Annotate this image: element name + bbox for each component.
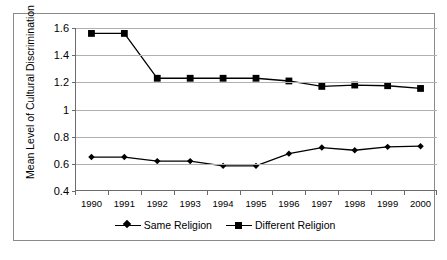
- x-tick-label: 1993: [180, 198, 201, 209]
- y-tick-mark: [72, 110, 76, 111]
- gridline: [75, 110, 437, 111]
- x-tick-mark: [338, 191, 339, 195]
- gridline: [75, 55, 437, 56]
- y-tick-label: 0.6: [27, 158, 69, 170]
- x-tick-mark: [108, 191, 109, 195]
- y-tick-label: 1: [27, 104, 69, 116]
- data-point-diamond: [121, 154, 127, 160]
- y-tick-mark: [72, 55, 76, 56]
- gridline: [75, 137, 437, 138]
- data-point-diamond: [286, 150, 292, 156]
- data-point-square: [318, 83, 325, 90]
- x-tick-mark: [436, 191, 437, 195]
- x-tick-mark: [272, 191, 273, 195]
- data-point-diamond: [417, 143, 423, 149]
- data-point-diamond: [384, 144, 390, 150]
- y-tick-label: 1.2: [27, 76, 69, 88]
- x-tick-mark: [141, 191, 142, 195]
- data-point-square: [253, 75, 260, 82]
- y-tick-mark: [72, 164, 76, 165]
- x-tick-label: 2000: [410, 198, 431, 209]
- data-point-diamond: [88, 154, 94, 160]
- y-tick-mark: [72, 82, 76, 83]
- x-tick-label: 1996: [278, 198, 299, 209]
- data-point-square: [121, 30, 128, 37]
- y-tick-label: 1.6: [27, 22, 69, 34]
- data-point-diamond: [319, 144, 325, 150]
- data-point-square: [88, 30, 95, 37]
- legend-diamond-icon: [115, 221, 141, 230]
- data-point-square: [286, 78, 293, 85]
- legend-label: Same Religion: [144, 219, 212, 231]
- legend-entry[interactable]: Same Religion: [115, 219, 212, 231]
- plot-area: [75, 28, 437, 191]
- x-tick-mark: [240, 191, 241, 195]
- y-tick-label: 1.4: [27, 49, 69, 61]
- x-tick-label: 1994: [213, 198, 234, 209]
- x-tick-label: 1992: [147, 198, 168, 209]
- chart-legend: Same ReligionDifferent Religion: [14, 219, 436, 231]
- x-tick-mark: [371, 191, 372, 195]
- y-tick-label: 0.4: [27, 185, 69, 197]
- data-point-square: [384, 82, 391, 89]
- data-point-diamond: [352, 147, 358, 153]
- x-tick-label: 1990: [81, 198, 102, 209]
- gridline: [75, 164, 437, 165]
- x-tick-mark: [207, 191, 208, 195]
- gridline: [75, 28, 437, 29]
- series-same-religion: [88, 143, 423, 169]
- legend-label: Different Religion: [255, 219, 335, 231]
- y-tick-mark: [72, 137, 76, 138]
- x-tick-mark: [305, 191, 306, 195]
- legend-square-icon: [226, 221, 252, 230]
- x-tick-label: 1995: [245, 198, 266, 209]
- chart-container: Mean Level of Cultural Discrimination 0.…: [13, 13, 435, 241]
- y-tick-label: 0.8: [27, 131, 69, 143]
- data-point-square: [417, 85, 424, 92]
- x-axis-tick-labels: 1990199119921993199419951996199719981999…: [75, 198, 437, 214]
- legend-entry[interactable]: Different Religion: [226, 219, 335, 231]
- y-axis-tick-labels: 0.40.60.811.21.41.6: [25, 28, 69, 191]
- data-point-square: [220, 75, 227, 82]
- data-point-square: [187, 75, 194, 82]
- x-tick-mark: [404, 191, 405, 195]
- gridline: [75, 82, 437, 83]
- x-tick-label: 1998: [344, 198, 365, 209]
- x-tick-mark: [75, 191, 76, 195]
- x-tick-mark: [174, 191, 175, 195]
- x-tick-label: 1997: [311, 198, 332, 209]
- x-tick-label: 1999: [377, 198, 398, 209]
- y-tick-mark: [72, 28, 76, 29]
- data-point-square: [154, 75, 161, 82]
- x-tick-label: 1991: [114, 198, 135, 209]
